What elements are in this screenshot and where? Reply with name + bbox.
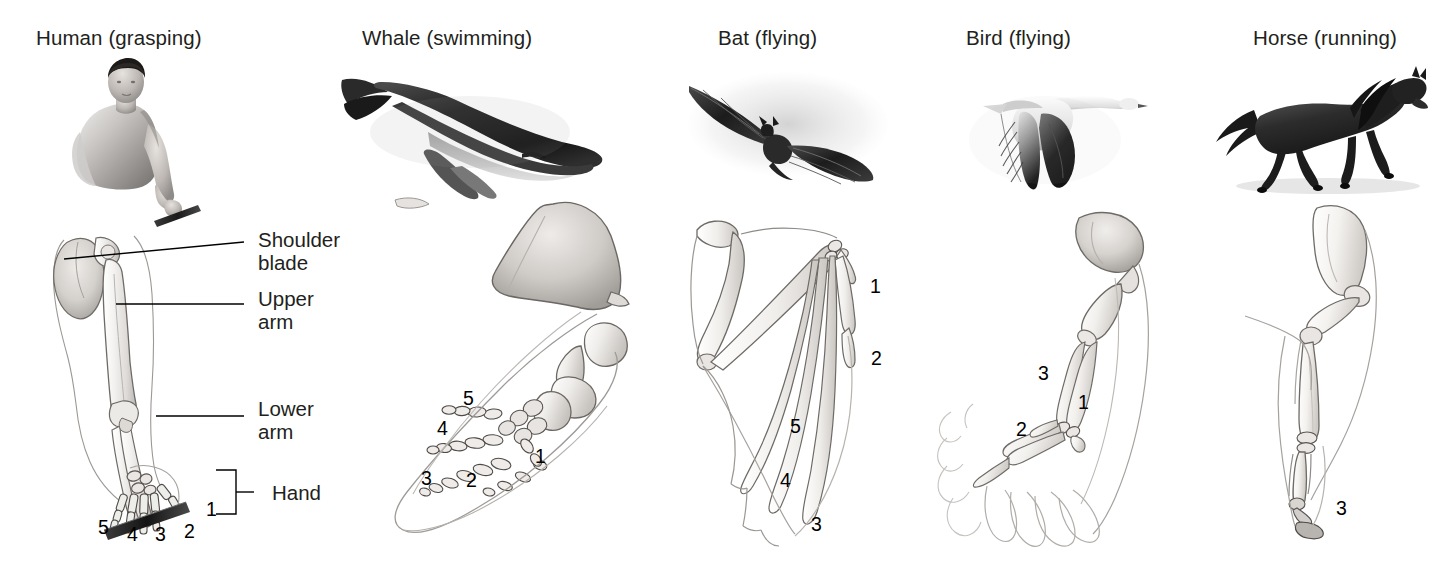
horse-leg-skeleton-image (1237, 200, 1412, 540)
humpback-whale-image (340, 62, 630, 202)
bat-wing-skeleton-image (685, 212, 900, 547)
panel-whale: Whale (swimming) (345, 0, 645, 570)
digit-label-bat-2: 2 (871, 348, 882, 368)
whale-flipper-skeleton-image (385, 196, 635, 541)
goose-in-flight-image (945, 62, 1155, 192)
digit-label-whale-5: 5 (463, 388, 474, 408)
digit-label-whale-2: 2 (466, 470, 477, 490)
bat-in-flight-image (683, 62, 898, 192)
panel-human: Human (grasping) (0, 0, 345, 570)
digit-label-bird-1: 1 (1078, 392, 1089, 412)
digit-label-bat-3: 3 (811, 514, 822, 534)
panel-title-bat: Bat (flying) (718, 26, 817, 50)
digit-label-bird-2: 2 (1016, 419, 1027, 439)
panel-title-bird: Bird (flying) (966, 26, 1071, 50)
homologous-forelimb-figure: Human (grasping) (0, 0, 1441, 570)
digit-label-whale-4: 4 (437, 418, 448, 438)
panel-bat: Bat (flying) (645, 0, 895, 570)
callout-label-upper-arm: Upper arm (258, 287, 314, 333)
callout-label-hand: Hand (272, 481, 321, 504)
callout-label-lower-arm: Lower arm (258, 397, 314, 443)
digit-label-human-1: 1 (206, 499, 217, 519)
digit-label-bat-1: 1 (870, 276, 881, 296)
digit-label-human-2: 2 (184, 521, 195, 541)
running-horse-image (1210, 62, 1435, 197)
panel-bird: Bird (flying) (895, 0, 1175, 570)
digit-label-bird-3: 3 (1038, 363, 1049, 383)
digit-label-bat-5: 5 (790, 416, 801, 436)
panel-title-human: Human (grasping) (36, 26, 202, 50)
digit-label-whale-1: 1 (535, 446, 546, 466)
digit-label-human-3: 3 (155, 524, 166, 544)
digit-label-human-5: 5 (98, 517, 109, 537)
panel-title-whale: Whale (swimming) (362, 26, 532, 50)
human-figure-holding-rod-image (58, 58, 208, 223)
human-callout-leader-lines (84, 224, 264, 514)
callout-label-shoulder-blade: Shoulder blade (258, 228, 340, 274)
digit-label-bat-4: 4 (780, 470, 791, 490)
panel-horse: Horse (running) (1175, 0, 1441, 570)
panel-title-horse: Horse (running) (1253, 26, 1397, 50)
digit-label-human-4: 4 (127, 524, 138, 544)
digit-label-horse-3: 3 (1336, 498, 1347, 518)
digit-label-whale-3: 3 (421, 468, 432, 488)
